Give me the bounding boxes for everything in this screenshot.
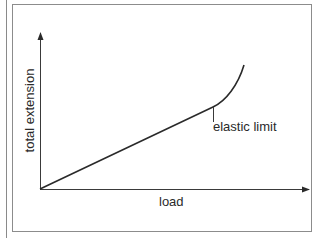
elastic-limit-label: elastic limit: [213, 119, 277, 134]
x-axis-label: load: [159, 194, 184, 209]
y-axis-label: total extension: [22, 64, 37, 158]
